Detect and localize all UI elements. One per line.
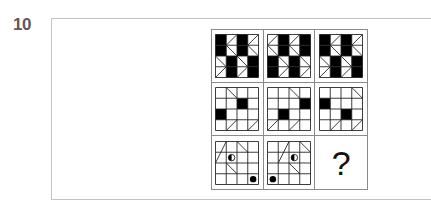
matrix-cell-r2c1 bbox=[212, 83, 264, 136]
matrix-cell-r1c1 bbox=[212, 30, 264, 83]
question-mark: ? bbox=[332, 146, 351, 180]
grid-figure bbox=[319, 34, 363, 78]
question-number: 10 bbox=[13, 15, 31, 35]
filled-dot-icon bbox=[250, 175, 256, 181]
matrix-cell-r3c2 bbox=[264, 136, 316, 189]
grid-figure bbox=[319, 87, 363, 131]
grid-figure bbox=[267, 141, 311, 185]
grid-figure bbox=[267, 87, 311, 131]
grid-figure bbox=[267, 34, 311, 78]
filled-dot-icon bbox=[270, 175, 276, 181]
puzzle-matrix: ? bbox=[211, 29, 368, 190]
grid-figure bbox=[215, 34, 259, 78]
matrix-cell-r1c3 bbox=[315, 30, 367, 83]
matrix-cell-r1c2 bbox=[264, 30, 316, 83]
matrix-cell-r2c2 bbox=[264, 83, 316, 136]
grid-figure bbox=[215, 141, 259, 185]
matrix-cell-r3c1 bbox=[212, 136, 264, 189]
grid-figure bbox=[215, 87, 259, 131]
matrix-cell-r3c3: ? bbox=[315, 136, 367, 189]
matrix-cell-r2c3 bbox=[315, 83, 367, 136]
